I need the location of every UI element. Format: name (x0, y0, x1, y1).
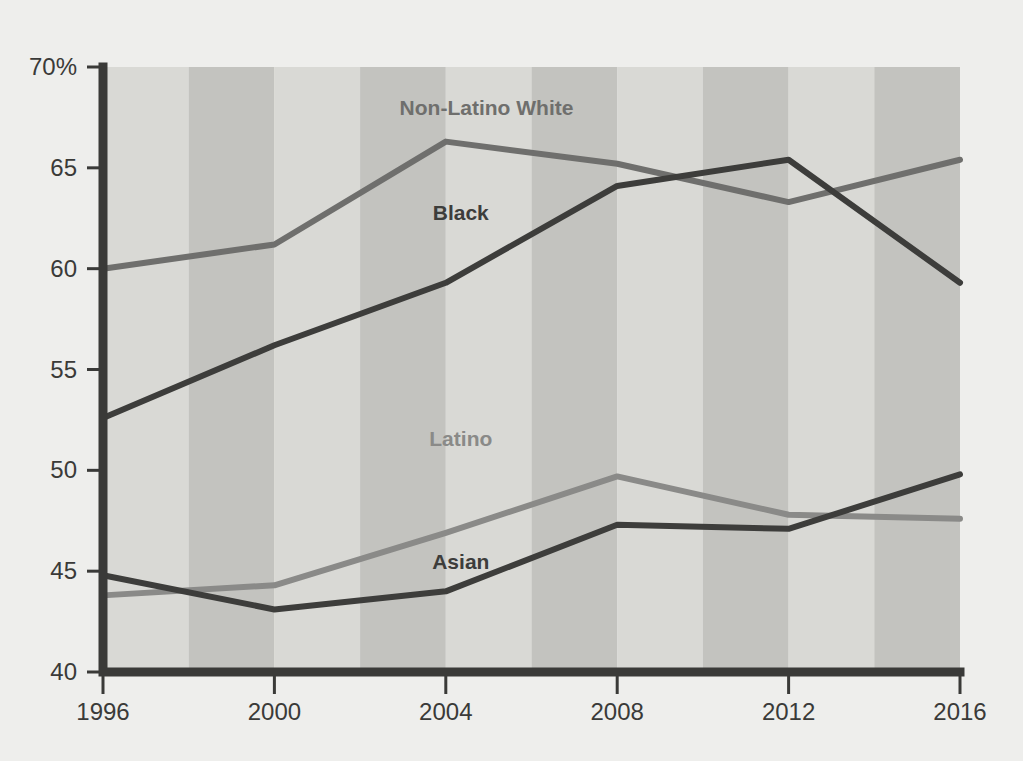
y-axis-tick-label: 70% (29, 53, 77, 80)
y-axis-tick-label: 40 (50, 658, 77, 685)
x-axis-tick-label: 2016 (933, 698, 986, 725)
plot-band (789, 67, 875, 672)
plot-band (874, 67, 960, 672)
x-axis-tick-label: 2012 (762, 698, 815, 725)
plot-band (360, 67, 446, 672)
series-label-asian: Asian (432, 550, 489, 573)
x-axis-tick-label: 2000 (248, 698, 301, 725)
plot-band (703, 67, 789, 672)
series-label-non-latino-white: Non-Latino White (400, 96, 574, 119)
x-axis-tick-label: 2008 (591, 698, 644, 725)
plot-band (189, 67, 275, 672)
x-axis-tick-label: 2004 (419, 698, 472, 725)
y-axis-tick-label: 60 (50, 255, 77, 282)
y-axis-tick-label: 65 (50, 154, 77, 181)
plot-background-bands (103, 67, 960, 672)
y-axis-tick-label: 45 (50, 557, 77, 584)
x-axis-tick-label: 1996 (76, 698, 129, 725)
series-label-latino: Latino (429, 427, 492, 450)
chart-container: 40455055606570% 199620002004200820122016… (0, 0, 1023, 761)
y-axis-tick-label: 50 (50, 456, 77, 483)
plot-band (446, 67, 532, 672)
series-label-black: Black (433, 201, 489, 224)
plot-band (617, 67, 703, 672)
y-axis-tick-label: 55 (50, 356, 77, 383)
line-chart: 40455055606570% 199620002004200820122016… (0, 0, 1023, 761)
